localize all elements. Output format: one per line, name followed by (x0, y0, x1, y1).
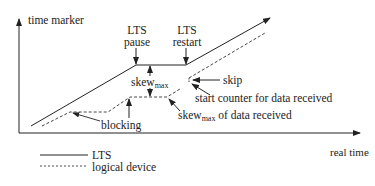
legend-logical-device-label: logical device (92, 161, 156, 173)
lts-pause-label: LTS pause (124, 24, 150, 48)
blocking-arrow-1 (73, 113, 100, 121)
skew-max-label: skewmax (131, 76, 168, 92)
skip-label: skip (223, 74, 242, 86)
blocking-label: blocking (101, 119, 141, 131)
skew-data-received-label: skewmax of data received (178, 109, 292, 125)
y-axis-label: time marker (28, 14, 84, 26)
x-axis-label: real time (330, 146, 369, 158)
start-counter-label: start counter for data received (195, 92, 332, 104)
lts-restart-label: LTS restart (170, 24, 204, 48)
legend-lts-label: LTS (92, 149, 111, 161)
